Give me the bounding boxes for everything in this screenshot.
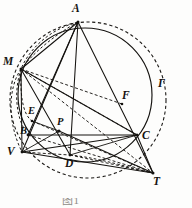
- segment-D-C: [70, 135, 137, 155]
- vertex-dot-B: [27, 134, 30, 137]
- vertex-dot-E: [31, 120, 34, 123]
- point-label-M: M: [3, 56, 13, 68]
- vertex-dot-P: [58, 130, 61, 133]
- point-label-V: V: [7, 146, 15, 158]
- vertex-dot-V: [21, 151, 24, 154]
- point-label-D: D: [65, 158, 73, 170]
- segment-A-M: [21, 22, 78, 69]
- segment-V-T: [22, 152, 153, 173]
- point-label-A: A: [72, 3, 80, 15]
- point-label-F: F: [122, 90, 130, 102]
- vertex-dot-C: [136, 134, 139, 137]
- vertex-dot-M: [20, 68, 23, 71]
- vertex-dot-F: [121, 103, 124, 106]
- point-label-C: C: [142, 130, 150, 142]
- vertex-dot-D: [69, 154, 72, 157]
- segment-M-F-dashed: [21, 69, 122, 104]
- outer-circle-gamma: [10, 22, 166, 178]
- figure-caption: 图1: [62, 198, 80, 207]
- geometry-figure: A M E B V P D C F T Γ 图1: [0, 0, 192, 208]
- segment-M-C: [21, 69, 137, 135]
- point-label-T: T: [153, 176, 160, 188]
- point-label-P: P: [57, 117, 63, 128]
- vertex-dot-A: [77, 21, 80, 24]
- caption-strip: 图1: [0, 198, 192, 208]
- segment-M-T-dashed: [21, 69, 153, 173]
- point-label-E: E: [28, 106, 35, 117]
- inner-circle-solid: [18, 28, 152, 162]
- segment-A-T: [78, 22, 153, 173]
- segment-E-P: [32, 121, 59, 131]
- segment-E-T-dashed: [32, 121, 153, 173]
- point-label-gamma: Γ: [158, 78, 165, 90]
- segment-A-B: [28, 22, 78, 135]
- geometry-canvas: [0, 0, 192, 208]
- point-label-B: B: [20, 126, 27, 137]
